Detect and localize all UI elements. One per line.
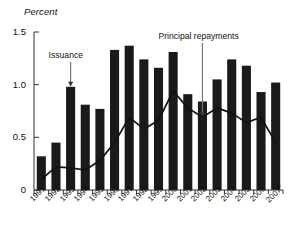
bar [81,105,90,190]
bar [227,59,236,190]
annotation-arrowhead [68,82,73,87]
chart-figure: Percent 00.51.01.5 199119921993199419951… [0,0,292,236]
bar [154,68,163,190]
y-tick-label: 1.5 [2,26,26,37]
bar [95,109,104,190]
bar [110,50,119,190]
bar [256,92,265,190]
annotation-label-principal-repayments: Principal repayments [158,31,238,41]
chart-plot-area [0,0,292,236]
bar [66,87,75,190]
bar [139,59,148,190]
y-tick-label: 1.0 [2,79,26,90]
bar [169,52,178,190]
bar [213,79,222,190]
y-tick-label: 0 [2,184,26,195]
y-tick-label: 0.5 [2,131,26,142]
bar [242,66,251,190]
annotation-label-issuance: Issuance [49,50,83,60]
